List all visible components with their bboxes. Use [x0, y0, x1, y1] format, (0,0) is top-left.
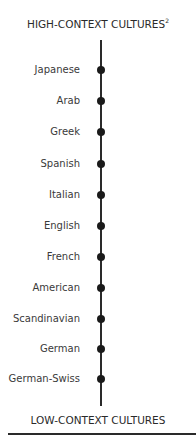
high-context-label: HIGH-CONTEXT CULTURES — [27, 18, 165, 30]
scale-item: Greek — [0, 125, 196, 139]
scale-item: Japanese — [0, 63, 196, 77]
scale-item: German — [0, 342, 196, 356]
culture-label: Scandinavian — [13, 312, 80, 326]
footnote-marker: 2 — [165, 17, 169, 24]
dot-marker-icon — [97, 222, 105, 230]
culture-label: German-Swiss — [9, 372, 80, 386]
dot-marker-icon — [97, 284, 105, 292]
low-context-heading: LOW-CONTEXT CULTURES — [0, 414, 196, 426]
scale-item: French — [0, 250, 196, 264]
dot-marker-icon — [97, 160, 105, 168]
scale-item: Spanish — [0, 157, 196, 171]
dot-marker-icon — [97, 253, 105, 261]
dot-marker-icon — [97, 345, 105, 353]
high-context-heading: HIGH-CONTEXT CULTURES2 — [0, 17, 196, 30]
culture-label: French — [47, 250, 80, 264]
culture-label: German — [40, 342, 80, 356]
dot-marker-icon — [97, 375, 105, 383]
scale-item: German-Swiss — [0, 372, 196, 386]
culture-label: American — [32, 281, 80, 295]
dot-marker-icon — [97, 97, 105, 105]
culture-label: Japanese — [35, 63, 80, 77]
culture-label: Arab — [57, 94, 80, 108]
culture-label: Spanish — [41, 157, 81, 171]
scale-item: Arab — [0, 94, 196, 108]
scale-item: Italian — [0, 188, 196, 202]
dot-marker-icon — [97, 66, 105, 74]
scale-item: American — [0, 281, 196, 295]
scale-item: English — [0, 219, 196, 233]
bottom-divider — [8, 433, 196, 435]
scale-item: Scandinavian — [0, 312, 196, 326]
culture-label: English — [44, 219, 80, 233]
culture-label: Greek — [50, 125, 80, 139]
dot-marker-icon — [97, 315, 105, 323]
culture-label: Italian — [49, 188, 80, 202]
dot-marker-icon — [97, 128, 105, 136]
dot-marker-icon — [97, 191, 105, 199]
